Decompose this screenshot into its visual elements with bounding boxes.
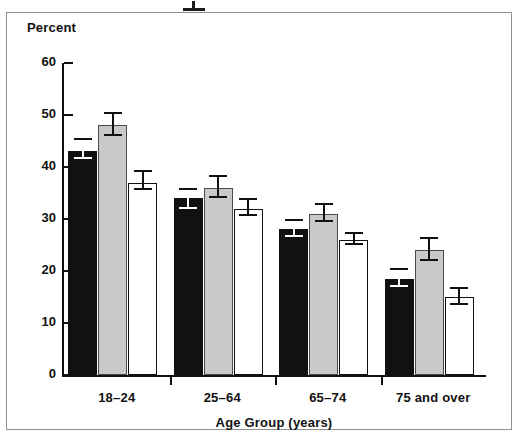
error-bar-stem [82,138,84,159]
bar-series-2-gray-group-4 [415,250,444,375]
error-bar-cap-top [179,188,197,190]
error-bar-cap-bottom [134,188,152,190]
bar-series-3-white-group-1 [128,183,157,375]
error-bar-cap-bottom [450,303,468,305]
error-bar-cap-top [134,170,152,172]
error-bar-series-3-white-group-4 [450,287,468,305]
error-bar-series-2-gray-group-2 [209,175,227,198]
x-axis-category-label-4: 75 and over [381,390,487,405]
error-bar-cap-bottom [345,243,363,245]
bar-series-3-white-group-2 [234,209,263,375]
error-bar-cap-bottom [420,259,438,261]
error-bar-series-1-black-group-4 [390,268,408,286]
y-axis-tick [64,62,73,64]
x-axis-category-label-3: 65–74 [275,390,381,405]
error-bar-series-1-black-group-2 [179,188,197,209]
error-bar-stem [187,188,189,209]
y-axis-tick-label: 30 [20,210,56,225]
error-bar-cap-top [315,203,333,205]
y-axis-tick-label: 40 [20,158,56,173]
y-axis-tick [64,114,73,116]
error-bar-cap-top [420,237,438,239]
error-bar-stem [217,175,219,198]
x-axis-group-separator [170,377,172,385]
error-bar-cap-bottom [74,157,92,159]
bar-series-1-black-group-3 [279,229,308,375]
error-bar-series-3-white-group-3 [345,232,363,245]
error-bar-cap-top [209,175,227,177]
bar-series-1-black-group-4 [385,279,414,375]
x-axis-category-label-2: 25–64 [170,390,276,405]
y-axis-tick-label: 50 [20,106,56,121]
error-bar-cap-bottom [390,285,408,287]
y-axis-spine [62,63,64,377]
bar-series-2-gray-group-1 [98,125,127,375]
x-axis-group-separator [275,377,277,385]
y-axis-tick-label: 60 [20,54,56,69]
error-bar-cap-bottom [285,235,303,237]
x-axis-group-separator [381,377,383,385]
error-bar-cap-top [104,112,122,114]
y-axis-tick-label: 10 [20,314,56,329]
bar-chart-plot: Percent 0102030405060 18–2425–6465–7475 … [0,0,524,440]
error-bar-cap-bottom [315,220,333,222]
error-bar-series-2-gray-group-3 [315,203,333,221]
x-axis-title: Age Group (years) [62,415,486,430]
error-bar-series-2-gray-group-1 [104,112,122,135]
error-bar-series-2-gray-group-4 [420,237,438,260]
y-axis-tick-label: 0 [20,366,56,381]
x-axis-spine [62,375,486,377]
error-bar-cap-top [74,138,92,140]
error-bar-cap-bottom [239,214,257,216]
error-bar-cap-top [450,287,468,289]
bar-series-3-white-group-3 [339,240,368,375]
bar-series-1-black-group-2 [174,198,203,375]
y-axis-title: Percent [27,20,76,35]
error-bar-cap-bottom [104,134,122,136]
bar-series-3-white-group-4 [445,297,474,375]
bar-series-2-gray-group-3 [309,214,338,375]
error-bar-series-1-black-group-3 [285,219,303,237]
error-bar-stem [142,170,144,191]
error-bar-cap-bottom [209,196,227,198]
error-bar-cap-top [285,219,303,221]
error-bar-series-3-white-group-1 [134,170,152,191]
error-bar-stem [112,112,114,135]
x-axis-category-label-1: 18–24 [64,390,170,405]
error-bar-cap-top [345,232,363,234]
error-bar-cap-top [239,198,257,200]
error-bar-stem [428,237,430,260]
error-bar-series-1-black-group-1 [74,138,92,159]
y-axis-tick-label: 20 [20,262,56,277]
error-bar-cap-top [390,268,408,270]
error-bar-cap-bottom [179,207,197,209]
error-bar-series-3-white-group-2 [239,198,257,216]
bar-series-2-gray-group-2 [204,188,233,375]
bar-series-1-black-group-1 [68,151,97,375]
